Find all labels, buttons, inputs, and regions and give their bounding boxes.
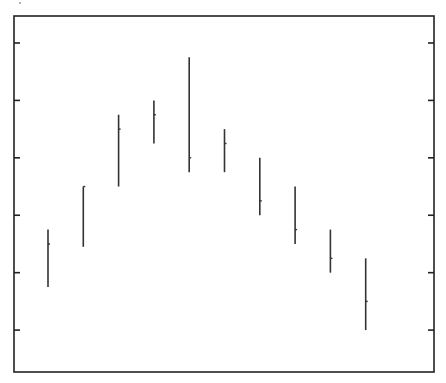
hlc-bar [154,100,156,143]
plot-frame [14,16,434,372]
hlc-bar [119,115,121,187]
hlc-bar [189,57,191,172]
hlc-bar [295,187,297,244]
stray-dot [19,2,21,4]
hlc-bar [83,187,85,247]
data-bars [48,57,368,330]
hlc-bar [48,230,50,287]
y-axis-ticks [14,43,434,330]
hlc-bar [366,258,368,330]
hlc-chart [0,0,446,383]
hlc-bar [225,129,227,172]
hlc-bar [330,230,332,273]
hlc-bar [260,158,262,215]
